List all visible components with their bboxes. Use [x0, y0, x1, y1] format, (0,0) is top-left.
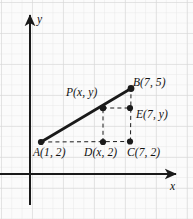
point-D: [100, 139, 106, 145]
y-axis-label: y: [37, 14, 42, 26]
point-label-E: E(7, y): [136, 109, 168, 121]
point-label-B: B(7, 5): [133, 77, 166, 89]
segment-AC-dashed: [41, 142, 130, 143]
x-axis-label: x: [170, 181, 175, 193]
point-P: [100, 105, 107, 112]
segment-CB-dashed: [131, 89, 132, 142]
point-label-A: A(1, 2): [33, 147, 66, 159]
point-A: [38, 139, 44, 145]
point-C: [127, 138, 133, 144]
point-label-C: C(7, 2): [127, 147, 160, 159]
point-E: [127, 105, 133, 111]
point-label-D: D(x, 2): [84, 147, 117, 159]
coordinate-plane-figure: y x A(1, 2) D(x, 2) C(7, 2) P(x, y) E(7,…: [0, 0, 193, 219]
point-label-P: P(x, y): [66, 87, 97, 99]
